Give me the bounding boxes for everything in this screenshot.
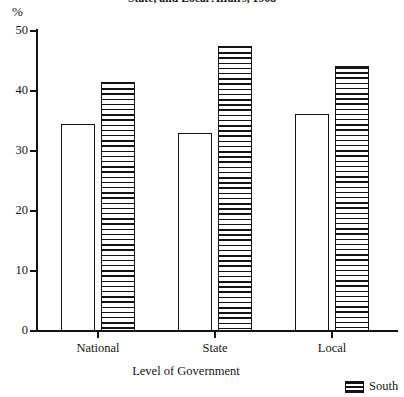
y-tick-label-30: 30 — [2, 144, 28, 157]
x-axis-label-state: State — [165, 341, 265, 356]
y-tick-0 — [30, 330, 37, 331]
bar-local-series-1 — [295, 114, 329, 331]
legend-label-south: South — [369, 379, 398, 394]
y-tick-label-20: 20 — [2, 204, 28, 217]
bar-state-series-2 — [218, 46, 252, 331]
x-tick-state — [214, 331, 216, 338]
bar-local-series-2 — [335, 66, 369, 331]
y-tick-label-50: 50 — [2, 24, 28, 37]
y-tick-30 — [30, 150, 37, 151]
bar-state-series-1 — [178, 133, 212, 331]
legend: South — [345, 379, 398, 394]
y-tick-20 — [30, 210, 37, 211]
y-tick-label-10: 10 — [2, 264, 28, 277]
y-axis-line — [36, 29, 38, 332]
bar-national-series-1 — [61, 124, 95, 331]
y-tick-label-40: 40 — [2, 84, 28, 97]
x-axis-label-local: Local — [282, 341, 382, 356]
y-tick-label-0: 0 — [2, 324, 28, 337]
y-axis-unit-label: % — [12, 4, 23, 20]
chart-title: State, and Local Affairs, 1968 — [0, 0, 404, 4]
x-tick-national — [97, 331, 99, 338]
bar-chart-figure: State, and Local Affairs, 1968 % 0102030… — [0, 0, 404, 397]
y-tick-10 — [30, 270, 37, 271]
x-axis-label-national: National — [48, 341, 148, 356]
y-tick-40 — [30, 90, 37, 91]
bar-national-series-2 — [101, 82, 135, 331]
legend-swatch-south-icon — [345, 381, 364, 393]
x-axis-title: Level of Government — [36, 364, 336, 379]
y-tick-50 — [30, 30, 37, 31]
x-tick-local — [331, 331, 333, 338]
